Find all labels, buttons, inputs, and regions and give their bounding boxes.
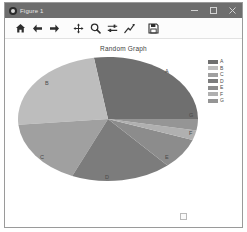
legend-label: F bbox=[220, 92, 223, 97]
legend-label: B bbox=[220, 66, 223, 71]
legend-item: B bbox=[208, 66, 224, 71]
close-icon[interactable] bbox=[223, 3, 242, 18]
arrow-right-icon[interactable] bbox=[47, 20, 62, 36]
legend-label: E bbox=[220, 85, 223, 90]
pie-slice-label: G bbox=[189, 113, 193, 119]
magnifier-icon[interactable] bbox=[88, 20, 103, 36]
pie-chart: ABCDEFG bbox=[13, 55, 203, 183]
arrow-left-icon[interactable] bbox=[30, 20, 45, 36]
figure-canvas[interactable]: Random Graph ABCDEFG ABCDEFG bbox=[5, 39, 242, 211]
legend-label: A bbox=[220, 59, 223, 64]
status-bar bbox=[5, 211, 242, 227]
pie-slices bbox=[18, 57, 198, 181]
legend-item: D bbox=[208, 79, 224, 84]
window-title: Figure 1 bbox=[20, 8, 44, 14]
move-cross-icon[interactable] bbox=[71, 20, 86, 36]
curve-edit-icon[interactable] bbox=[122, 20, 137, 36]
home-icon[interactable] bbox=[13, 20, 28, 36]
sliders-icon[interactable] bbox=[105, 20, 120, 36]
legend-swatch bbox=[208, 60, 218, 64]
pie-slice-label: D bbox=[105, 175, 109, 181]
window-titlebar[interactable]: Figure 1 bbox=[5, 3, 242, 18]
legend-swatch bbox=[208, 92, 218, 96]
pie-slice-label: A bbox=[165, 69, 169, 75]
maximize-icon[interactable] bbox=[204, 3, 223, 18]
legend-item: F bbox=[208, 92, 224, 97]
legend-item: C bbox=[208, 72, 224, 77]
legend-item: E bbox=[208, 85, 224, 90]
pie-slice-label: B bbox=[45, 81, 49, 87]
pie-slice-label: C bbox=[40, 155, 44, 161]
legend-swatch bbox=[208, 99, 218, 103]
legend-item: G bbox=[208, 98, 224, 103]
chart-legend: ABCDEFG bbox=[208, 59, 224, 103]
legend-swatch bbox=[208, 79, 218, 83]
chart-title: Random Graph bbox=[5, 45, 242, 52]
minimize-icon[interactable] bbox=[185, 3, 204, 18]
legend-swatch bbox=[208, 66, 218, 70]
status-indicator-box bbox=[180, 213, 187, 220]
legend-swatch bbox=[208, 73, 218, 77]
legend-label: C bbox=[220, 72, 224, 77]
window-controls bbox=[185, 3, 242, 18]
figure-window: Figure 1 bbox=[4, 2, 243, 228]
pie-slice bbox=[94, 57, 198, 119]
legend-swatch bbox=[208, 86, 218, 90]
legend-label: D bbox=[220, 79, 224, 84]
matplotlib-icon bbox=[9, 7, 17, 15]
legend-label: G bbox=[220, 98, 224, 103]
pie-svg bbox=[13, 55, 203, 183]
pie-slice-label: F bbox=[189, 131, 192, 137]
legend-item: A bbox=[208, 59, 224, 64]
pie-slice-label: E bbox=[165, 155, 169, 161]
pie-slice bbox=[18, 58, 108, 125]
save-disk-icon[interactable] bbox=[146, 20, 161, 36]
figure-toolbar bbox=[5, 18, 242, 39]
